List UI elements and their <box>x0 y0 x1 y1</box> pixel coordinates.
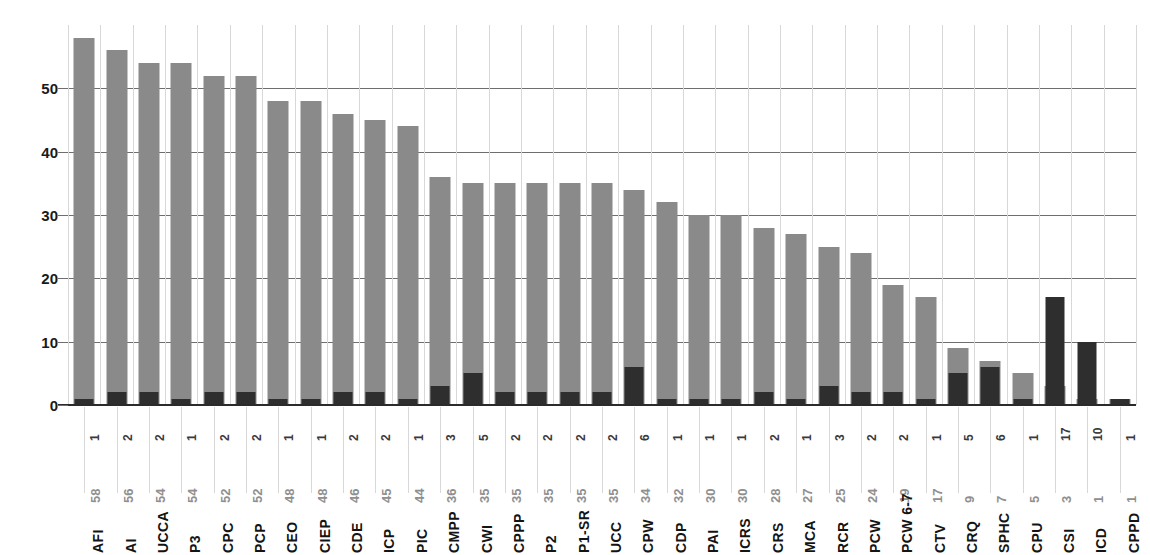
x-label-slot: 634CPW <box>618 407 650 555</box>
y-axis-tick-mark <box>58 405 68 406</box>
bar-slot <box>942 25 974 405</box>
x-tick-line <box>1055 407 1056 493</box>
bar-slot <box>780 25 812 405</box>
x-label-slot: 325RCR <box>812 407 844 555</box>
y-axis-tick-mark <box>58 342 68 343</box>
x-label-slot: 158AFI <box>68 407 100 555</box>
x-label-count: 1 <box>801 434 813 441</box>
x-tick-line <box>796 407 797 493</box>
x-tick-line <box>117 407 118 493</box>
x-label-count: 1 <box>1125 434 1137 441</box>
x-tick-line <box>343 407 344 493</box>
x-label-slot: 535CWI <box>456 407 488 555</box>
bar-total <box>106 50 127 405</box>
x-label-slot: 132CDP <box>651 407 683 555</box>
x-tick-line <box>634 407 635 493</box>
bar-count <box>1046 297 1065 405</box>
bar-total <box>462 183 483 405</box>
x-label-count: 1 <box>413 434 425 441</box>
x-label-count: 6 <box>995 434 1007 441</box>
bar-slot <box>197 25 229 405</box>
x-label-count: 2 <box>219 434 231 441</box>
y-axis-tick-label: 40 <box>14 143 58 160</box>
x-tick-line <box>84 407 85 493</box>
x-label-slot: 228CRS <box>748 407 780 555</box>
bar-slot <box>812 25 844 405</box>
x-label-count: 2 <box>122 434 134 441</box>
x-label-count: 2 <box>866 434 878 441</box>
x-label-slot: 235P1-SR <box>553 407 585 555</box>
x-tick-line <box>375 407 376 493</box>
bar-slot <box>1039 25 1071 405</box>
x-label-slot: 254UCCA <box>133 407 165 555</box>
x-label-count: 1 <box>736 434 748 441</box>
x-tick-line <box>731 407 732 493</box>
bar-slot <box>877 25 909 405</box>
x-label-count: 5 <box>963 434 975 441</box>
bar-slot <box>1071 25 1103 405</box>
x-label-count: 2 <box>154 434 166 441</box>
bar-slot <box>974 25 1006 405</box>
x-label-slot: 235UCC <box>586 407 618 555</box>
x-label-slot: 173CSI <box>1039 407 1071 555</box>
x-tick-line <box>408 407 409 493</box>
bar-total <box>365 120 386 405</box>
x-tick-line <box>699 407 700 493</box>
bar-total <box>171 63 192 405</box>
gridline-x <box>1136 25 1137 405</box>
bar-slot <box>489 25 521 405</box>
x-label-count: 17 <box>1060 428 1072 441</box>
x-label-count: 10 <box>1092 428 1104 441</box>
x-axis-labels: 158AFI256AI254UCCA154P3252CPC252PCP148CE… <box>68 407 1136 555</box>
x-label-count: 2 <box>769 434 781 441</box>
bar-total <box>559 183 580 405</box>
x-label-count: 1 <box>931 434 943 441</box>
bar-slot <box>295 25 327 405</box>
x-tick-line <box>473 407 474 493</box>
x-label-slot: 256AI <box>100 407 132 555</box>
x-label-slot: 224PCW <box>845 407 877 555</box>
x-label-slot: 148CIEP <box>295 407 327 555</box>
x-label-slot: 11CPPD <box>1104 407 1136 555</box>
bar-slot <box>586 25 618 405</box>
x-tick-line <box>861 407 862 493</box>
bar-total <box>430 177 451 405</box>
x-label-slot: 15CPU <box>1007 407 1039 555</box>
bar-total <box>74 38 95 405</box>
bar-count <box>819 386 838 405</box>
bar-total <box>268 101 289 405</box>
bar-total <box>397 126 418 405</box>
x-label-count: 6 <box>639 434 651 441</box>
x-label-count: 1 <box>704 434 716 441</box>
bar-slot <box>521 25 553 405</box>
bar-slot <box>715 25 747 405</box>
x-label-count: 1 <box>283 434 295 441</box>
bar-slot <box>165 25 197 405</box>
bar-slot <box>651 25 683 405</box>
x-tick-line <box>214 407 215 493</box>
bar-slot <box>1104 25 1136 405</box>
bar-count <box>431 386 450 405</box>
bar-total <box>527 183 548 405</box>
bar-total <box>753 228 774 405</box>
bar-total <box>850 253 871 405</box>
x-tick-line <box>602 407 603 493</box>
x-label-slot: 148CEO <box>262 407 294 555</box>
x-tick-line <box>764 407 765 493</box>
x-tick-line <box>1087 407 1088 493</box>
bar-slot <box>100 25 132 405</box>
x-label-count: 2 <box>575 434 587 441</box>
x-label-slot: 117CTV <box>909 407 941 555</box>
x-tick-line <box>893 407 894 493</box>
bar-slot <box>683 25 715 405</box>
y-axis-tick-mark <box>58 152 68 153</box>
x-tick-line <box>958 407 959 493</box>
bar-slot <box>456 25 488 405</box>
x-label-slot: 245ICP <box>359 407 391 555</box>
bar-slot <box>68 25 100 405</box>
bar-slot <box>359 25 391 405</box>
bar-total <box>818 247 839 405</box>
bar-slot <box>1007 25 1039 405</box>
bar-total <box>689 215 710 405</box>
x-label-count: 2 <box>380 434 392 441</box>
